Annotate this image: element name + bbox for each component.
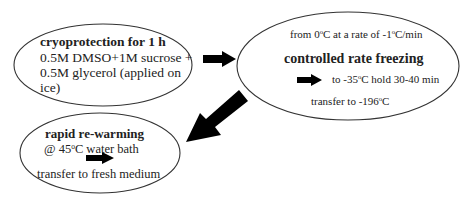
text-fragment: C/min — [395, 28, 423, 40]
freezing-hold-text: to -35oC hold 30-40 min — [332, 74, 439, 85]
cryoprotection-line: 0.5M glycerol (applied on — [40, 66, 181, 80]
text-fragment: transfer to -196 — [311, 95, 379, 107]
text-fragment: to -35 — [332, 73, 358, 85]
text-fragment: C at a rate of -1 — [323, 28, 392, 40]
cryoprotection-line: 0.5M DMSO+1M sucrose + — [40, 51, 192, 65]
rewarming-water-bath-text: @ 45oC water bath — [44, 143, 139, 156]
rewarming-title: rapid re-warming — [45, 127, 144, 140]
cryoprotection-title: cryoprotection for 1 h — [40, 35, 166, 49]
text-fragment: C — [382, 95, 389, 107]
cryoprotection-line: ice) — [40, 81, 60, 95]
freezing-title: controlled rate freezing — [284, 52, 423, 66]
text-fragment: C water bath — [75, 142, 139, 156]
text-fragment: @ 45 — [44, 142, 71, 156]
text-fragment: C hold 30-40 min — [361, 73, 439, 85]
rewarming-transfer-text: transfer to fresh medium — [37, 168, 160, 181]
freezing-transfer-text: transfer to -196oC — [311, 96, 389, 107]
freezing-rate-text: from 0oC at a rate of -1oC/min — [290, 29, 422, 40]
arrow-down-left-icon — [186, 90, 248, 142]
arrow-right-icon — [203, 51, 236, 67]
text-fragment: from 0 — [290, 28, 320, 40]
small-arrow-right-icon — [297, 74, 322, 86]
